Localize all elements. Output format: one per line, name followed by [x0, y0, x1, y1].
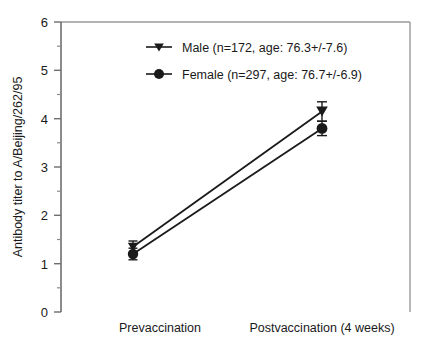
circle-marker-icon: [154, 69, 164, 79]
y-tick-label-0: 0: [41, 305, 48, 320]
y-tick-label-2: 2: [41, 208, 48, 223]
antibody-titer-line-chart: 6 5 4 3 2 1 0 Antibody titer to A/Beijin…: [0, 0, 429, 355]
y-tick-label-3: 3: [41, 160, 48, 175]
x-category-label-postvaccination: Postvaccination (4 weeks): [249, 321, 394, 335]
series-female-marker-pre: [128, 249, 138, 259]
legend-male-label: Male (n=172, age: 76.3+/-7.6): [182, 41, 347, 55]
figure-container: 6 5 4 3 2 1 0 Antibody titer to A/Beijin…: [0, 0, 429, 355]
x-category-label-prevaccination: Prevaccination: [119, 321, 201, 335]
y-tick-label-6: 6: [41, 15, 48, 30]
y-tick-label-5: 5: [41, 63, 48, 78]
y-axis-title: Antibody titer to A/Beijing/262/95: [11, 77, 25, 258]
y-tick-label-4: 4: [41, 112, 48, 127]
series-female-marker-post: [317, 123, 328, 134]
legend-female-label: Female (n=297, age: 76.7+/-6.9): [182, 68, 362, 82]
y-tick-label-1: 1: [41, 257, 48, 272]
